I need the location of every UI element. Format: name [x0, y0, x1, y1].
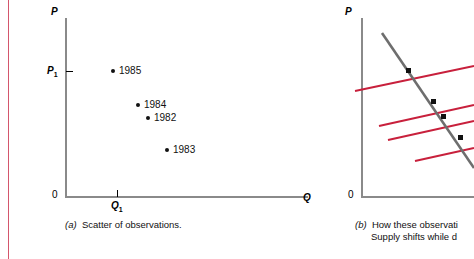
- figure-supply-demand-scatter: P Q 0 P1 Q1 1985 1984 1982 1983 (a) Scat…: [0, 0, 474, 259]
- scatter-label-1982: 1982: [154, 112, 176, 123]
- p1-base: P: [47, 65, 54, 76]
- scatter-dot-1984: [136, 103, 140, 107]
- page-margin-rule: [8, 0, 9, 259]
- panel-a-caption: (a) Scatter of observations.: [65, 219, 182, 231]
- panel-a-y-tick: [66, 71, 73, 72]
- panel-a-x-axis: [65, 196, 308, 198]
- intersection-point-1983: [458, 135, 463, 140]
- intersection-point-1982: [441, 114, 446, 119]
- panel-a-y-tick-label: P1: [47, 65, 58, 78]
- scatter-dot-1982: [146, 116, 150, 120]
- panel-a-x-axis-label: Q: [303, 192, 311, 203]
- panel-a-y-axis: [65, 18, 67, 198]
- intersection-point-1985: [406, 68, 411, 73]
- scatter-dot-1985: [111, 69, 115, 73]
- panel-a-caption-marker: (a): [65, 219, 77, 230]
- intersection-point-1984: [431, 99, 436, 104]
- panel-a-caption-text: Scatter of observations.: [82, 219, 182, 230]
- panel-b-caption: (b) How these observatiSupply shifts whi…: [355, 219, 458, 242]
- scatter-label-1985: 1985: [119, 65, 141, 76]
- panel-b-caption-line2: Supply shifts while d: [371, 231, 457, 243]
- supply-curve-1984: [379, 105, 474, 126]
- panel-a-y-axis-label: P: [51, 6, 58, 17]
- panel-a-origin-label: 0: [52, 189, 58, 200]
- q1-sub: 1: [119, 206, 123, 213]
- scatter-dot-1983: [165, 148, 169, 152]
- panel-b-supply-shifts: P 0 (b) How these observatiSupply shifts…: [335, 0, 474, 259]
- demand-curve: [382, 33, 474, 168]
- p1-sub: 1: [54, 71, 58, 78]
- panel-b-caption-line1: How these observati: [372, 219, 458, 230]
- panel-a-x-tick-label: Q1: [111, 200, 123, 213]
- panel-a-scatter: P Q 0 P1 Q1 1985 1984 1982 1983 (a) Scat…: [30, 0, 330, 259]
- scatter-label-1983: 1983: [173, 144, 195, 155]
- panel-b-caption-marker: (b): [355, 219, 367, 230]
- scatter-label-1984: 1984: [144, 99, 166, 110]
- q1-base: Q: [111, 200, 119, 211]
- panel-a-x-tick: [117, 190, 118, 197]
